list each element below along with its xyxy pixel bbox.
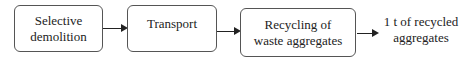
node-label-line1: Selective xyxy=(30,13,86,29)
node-label-line2: demolition xyxy=(30,29,86,45)
node-label-line2: waste aggregates xyxy=(254,33,342,49)
node-label-line1: Transport xyxy=(147,16,197,32)
node-output-recycled-aggregates: 1 t of recycled aggregates xyxy=(380,14,462,46)
output-label-line2: aggregates xyxy=(380,30,462,46)
output-label-line1: 1 t of recycled xyxy=(380,14,462,30)
node-label-line1: Recycling of xyxy=(254,17,342,33)
node-transport: Transport xyxy=(127,5,217,52)
arrow-recycling-to-output xyxy=(357,33,377,34)
arrow-demolition-to-transport xyxy=(103,28,126,29)
node-selective-demolition: Selective demolition xyxy=(14,5,103,52)
arrow-transport-to-recycling xyxy=(217,31,239,32)
node-recycling-waste-aggregates: Recycling of waste aggregates xyxy=(240,8,356,57)
